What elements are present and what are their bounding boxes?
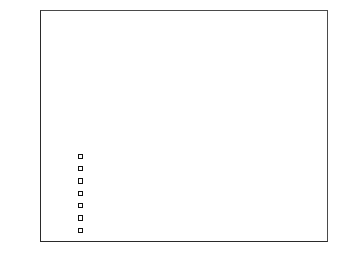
legend-item[interactable] <box>78 175 87 187</box>
legend-swatch-icon <box>78 166 83 171</box>
legend-swatch-icon <box>78 228 83 233</box>
legend-swatch-icon <box>78 154 83 159</box>
legend-item[interactable] <box>78 224 87 236</box>
legend-item[interactable] <box>78 200 87 212</box>
legend-item[interactable] <box>78 150 87 162</box>
legend-swatch-icon <box>78 178 83 183</box>
legend-item[interactable] <box>78 212 87 224</box>
chart-figure <box>0 0 345 270</box>
legend-swatch-icon <box>78 191 83 196</box>
legend-swatch-icon <box>78 215 83 220</box>
legend-swatch-icon <box>78 203 83 208</box>
legend-item[interactable] <box>78 187 87 199</box>
chart-legend <box>78 150 87 237</box>
legend-item[interactable] <box>78 162 87 174</box>
chart-canvas <box>0 0 345 270</box>
